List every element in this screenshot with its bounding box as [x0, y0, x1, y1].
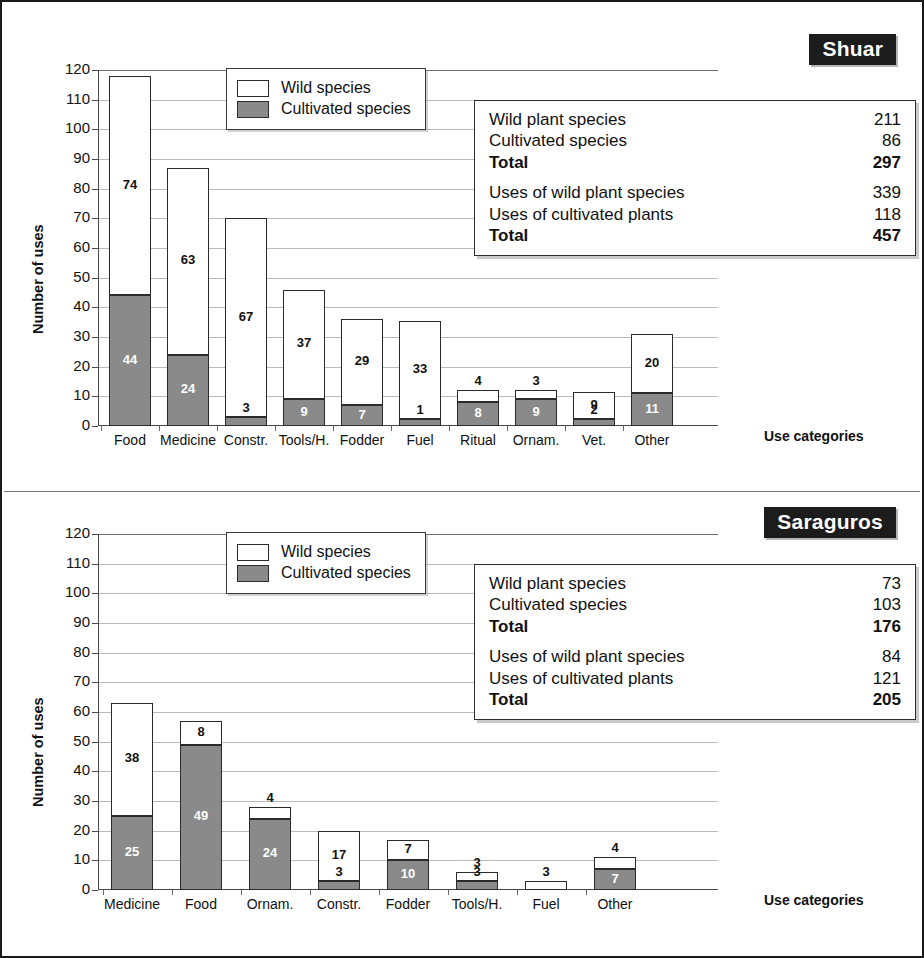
bar-value-cultivated: 25	[111, 844, 153, 859]
bar-tools-h: 33	[456, 872, 498, 890]
y-tick-label: 80	[44, 179, 90, 196]
x-tick-label: Food	[101, 432, 159, 448]
stats-label: Total	[489, 152, 552, 173]
stats-label: Cultivated species	[489, 594, 651, 615]
bar-value-cultivated: 7	[594, 871, 636, 886]
stats-group: Uses of wild plant species339Uses of cul…	[489, 182, 901, 246]
bar-other: 2011	[631, 334, 673, 426]
stats-label: Wild plant species	[489, 573, 650, 594]
x-tick-mark	[565, 426, 566, 431]
bar-value-cultivated: 3	[456, 864, 498, 879]
stats-row: Uses of wild plant species84	[489, 646, 901, 667]
bar-value-wild: 29	[341, 353, 383, 368]
bar-value-cultivated: 9	[283, 404, 325, 419]
panel-title-saraguros: Saraguros	[764, 507, 896, 538]
x-tick-label: Ritual	[449, 432, 507, 448]
x-tick-mark	[586, 890, 587, 895]
stats-value: 86	[857, 130, 901, 151]
bar-value-cultivated: 3	[318, 864, 360, 879]
bar-value-wild: 67	[225, 309, 267, 324]
bar-value-cultivated: 2	[573, 402, 615, 417]
legend-row-cultivated: Cultivated species	[237, 564, 411, 582]
bar-fodder: 297	[341, 319, 383, 426]
legend-label-wild: Wild species	[281, 79, 371, 97]
bar-value-wild: 38	[111, 750, 153, 765]
stats-box-saraguros: Wild plant species73Cultivated species10…	[474, 564, 916, 720]
stats-group: Wild plant species211Cultivated species8…	[489, 109, 901, 173]
stats-value: 103	[857, 594, 901, 615]
bar-medicine: 3825	[111, 703, 153, 890]
bar-value-cultivated: 3	[225, 400, 267, 415]
y-tick-mark	[92, 70, 98, 71]
x-tick-mark	[310, 890, 311, 895]
y-tick-label: 60	[44, 702, 90, 719]
y-tick-mark	[92, 367, 98, 368]
legend-saraguros: Wild species Cultivated species	[226, 532, 426, 594]
bar-value-wild: 3	[515, 373, 557, 388]
bar-segment-wild	[515, 390, 557, 399]
stats-label: Total	[489, 225, 552, 246]
bar-segment-cultivated	[573, 419, 615, 426]
stats-value: 121	[857, 668, 901, 689]
x-tick-label: Constr.	[305, 896, 374, 912]
bar-food: 7444	[109, 76, 151, 426]
y-tick-mark	[92, 129, 98, 130]
x-axis-title-saraguros: Use categories	[764, 892, 864, 908]
stats-label: Uses of wild plant species	[489, 182, 709, 203]
x-axis-title-shuar: Use categories	[764, 428, 864, 444]
stats-row: Uses of cultivated plants118	[489, 204, 901, 225]
y-tick-label: 20	[44, 821, 90, 838]
bar-value-wild: 74	[109, 177, 151, 192]
x-tick-label: Other	[581, 896, 650, 912]
y-tick-label: 110	[44, 554, 90, 571]
bar-tools-h: 379	[283, 290, 325, 426]
y-tick-mark	[92, 623, 98, 624]
bar-food: 849	[180, 721, 222, 890]
x-tick-mark	[379, 890, 380, 895]
y-tick-label: 120	[44, 60, 90, 77]
y-tick-mark	[92, 890, 98, 891]
y-tick-mark	[92, 426, 98, 427]
y-tick-label: 110	[44, 90, 90, 107]
bar-fuel: 3	[525, 881, 567, 890]
y-tick-mark	[92, 307, 98, 308]
stats-row: Cultivated species103	[489, 594, 901, 615]
x-tick-mark	[172, 890, 173, 895]
x-tick-mark	[241, 890, 242, 895]
stats-row: Total176	[489, 616, 901, 637]
bar-value-wild: 37	[283, 335, 325, 350]
y-tick-mark	[92, 831, 98, 832]
x-tick-mark	[159, 426, 160, 431]
legend-swatch-cultivated-icon	[237, 565, 269, 582]
bar-ornam: 39	[515, 390, 557, 426]
bar-constr: 673	[225, 218, 267, 426]
bar-ornam: 424	[249, 807, 291, 890]
bar-segment-cultivated	[456, 881, 498, 890]
stats-row: Total297	[489, 152, 901, 173]
y-tick-label: 30	[44, 327, 90, 344]
y-tick-label: 90	[44, 149, 90, 166]
bar-vet: 92	[573, 392, 615, 426]
y-tick-label: 60	[44, 238, 90, 255]
stats-row: Total457	[489, 225, 901, 246]
x-tick-mark	[507, 426, 508, 431]
y-tick-label: 20	[44, 357, 90, 374]
x-tick-mark	[517, 890, 518, 895]
y-tick-label: 70	[44, 672, 90, 689]
x-tick-mark	[391, 426, 392, 431]
stats-value: 118	[857, 204, 901, 225]
x-tick-label: Food	[167, 896, 236, 912]
y-tick-mark	[92, 159, 98, 160]
panel-title-shuar: Shuar	[809, 34, 896, 65]
bar-value-cultivated: 1	[399, 402, 441, 417]
x-tick-mark	[623, 426, 624, 431]
legend-row-cultivated: Cultivated species	[237, 100, 411, 118]
bar-value-wild: 4	[457, 373, 499, 388]
bar-segment-wild	[249, 807, 291, 819]
stats-value: 176	[857, 616, 901, 637]
bar-segment-cultivated	[318, 881, 360, 890]
x-tick-label: Fodder	[333, 432, 391, 448]
bar-value-cultivated: 10	[387, 866, 429, 881]
y-tick-mark	[92, 860, 98, 861]
legend-shuar: Wild species Cultivated species	[226, 68, 426, 130]
